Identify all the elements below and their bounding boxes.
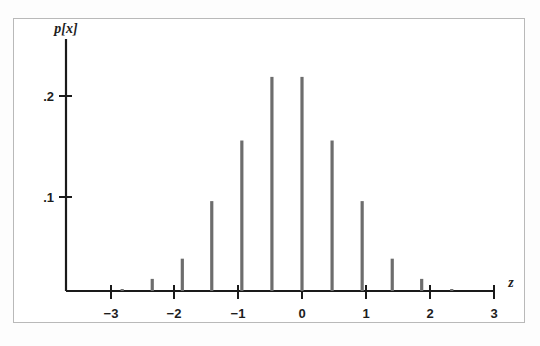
y-axis-title: p[x] [53, 21, 78, 36]
bars-group [122, 77, 452, 291]
figure-root: .2 .1 p[x] −3 −2 −1 0 1 2 3 z [0, 0, 540, 346]
plot-frame: .2 .1 p[x] −3 −2 −1 0 1 2 3 z [13, 18, 525, 323]
x-tick-label-1: 1 [362, 306, 369, 321]
x-tick-label-2: 2 [426, 306, 433, 321]
x-tick-label--2: −2 [167, 306, 182, 321]
figure-caption [16, 331, 516, 344]
x-tick-label-0: 0 [298, 306, 305, 321]
chart-canvas: .2 .1 p[x] −3 −2 −1 0 1 2 3 z [14, 19, 523, 321]
x-axis-title: z [507, 275, 514, 290]
y-tick-label-0.2: .2 [43, 89, 54, 104]
x-tick-label--1: −1 [231, 306, 246, 321]
x-tick-label-3: 3 [490, 306, 497, 321]
x-tick-label--3: −3 [104, 306, 119, 321]
y-tick-label-0.1: .1 [43, 190, 54, 205]
